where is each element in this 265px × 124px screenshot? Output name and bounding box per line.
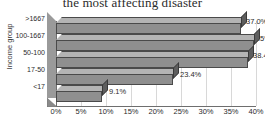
y-tick-label-4: >1667	[25, 15, 45, 22]
x-tick-label-7: 35%	[223, 107, 238, 116]
x-tick-label-8: 40%	[248, 107, 263, 116]
x-tick-label-6: 30%	[198, 107, 213, 116]
y-tick-label-3: 100-1667	[15, 32, 45, 39]
y-axis-tick-labels: <17 17-50 50-100 100-1667 >1667	[0, 12, 45, 106]
x-tick-label-1: 5%	[76, 107, 87, 116]
y-tick-label-0: <17	[33, 83, 45, 90]
bar-0[interactable]	[56, 91, 102, 102]
bar-group-0	[56, 85, 102, 96]
chart-title: the most affecting disaster	[0, 0, 265, 11]
y-tick-label-1: 17-50	[27, 66, 45, 73]
bar-1[interactable]	[56, 74, 173, 85]
data-label-3: .5%	[258, 34, 265, 43]
bar-group-3	[56, 34, 254, 45]
bar-group-1	[56, 68, 173, 79]
data-label-1: 23.4%	[180, 70, 201, 79]
x-tick-label-5: 25%	[173, 107, 188, 116]
bar-3[interactable]	[56, 40, 254, 51]
bar-2[interactable]	[56, 57, 248, 68]
y-tick-label-2: 50-100	[23, 49, 45, 56]
data-label-4: 37.0%	[246, 17, 265, 26]
bar-group-2	[56, 51, 248, 62]
bar-4[interactable]	[56, 23, 241, 34]
x-axis-tick-labels: 0% 5% 10% 15% 20% 25% 30% 35% 40%	[47, 107, 262, 121]
data-label-2: 38.4%	[253, 51, 265, 60]
plot-area: 37.0% .5% 38.4% 23.4% 9.1%	[47, 12, 256, 106]
x-tick-label-2: 10%	[98, 107, 113, 116]
bar-chart: the most affecting disaster Income group…	[0, 0, 265, 124]
x-tick-label-4: 20%	[148, 107, 163, 116]
data-label-0: 9.1%	[109, 87, 126, 96]
axis-side-wall	[47, 12, 56, 98]
x-tick-label-3: 15%	[123, 107, 138, 116]
bar-group-4	[56, 17, 241, 28]
x-tick-label-0: 0%	[51, 107, 62, 116]
